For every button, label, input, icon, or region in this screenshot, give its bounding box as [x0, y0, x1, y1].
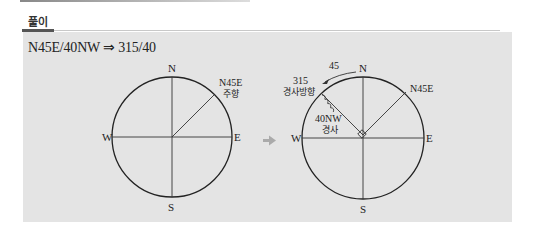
- right-south-label: S: [360, 203, 366, 215]
- left-west-label: W: [102, 131, 113, 143]
- right-compass: N S E W N45E 45 315 경사방향 40NW 경사: [283, 60, 433, 215]
- rotation-arc: [325, 72, 356, 82]
- left-east-label: E: [234, 131, 241, 143]
- compass-diagrams: N S E W N45E 주향 N S E W N45E 45 315 경사방향…: [0, 0, 534, 234]
- left-north-label: N: [168, 62, 176, 74]
- rotation-angle-label: 45: [329, 60, 339, 71]
- dip-hatch-marks: [319, 94, 337, 112]
- dip-direction-caption: 경사방향: [283, 86, 315, 97]
- left-south-label: S: [168, 201, 174, 213]
- left-strike-line: [172, 95, 214, 137]
- transition-arrow-icon: [263, 136, 276, 146]
- right-strike-label: N45E: [410, 83, 433, 94]
- dip-direction-value: 315: [293, 75, 308, 86]
- left-strike-caption: 주향: [223, 88, 239, 99]
- left-compass: N S E W N45E 주향: [102, 62, 242, 213]
- dip-caption: 경사: [322, 124, 339, 135]
- right-east-label: E: [426, 132, 433, 144]
- dip-value: 40NW: [315, 113, 342, 124]
- left-strike-label: N45E: [219, 77, 242, 88]
- right-west-label: W: [291, 132, 302, 144]
- right-strike-line: [363, 92, 406, 135]
- right-north-label: N: [359, 62, 367, 74]
- rotation-arrowhead-icon: [322, 79, 329, 84]
